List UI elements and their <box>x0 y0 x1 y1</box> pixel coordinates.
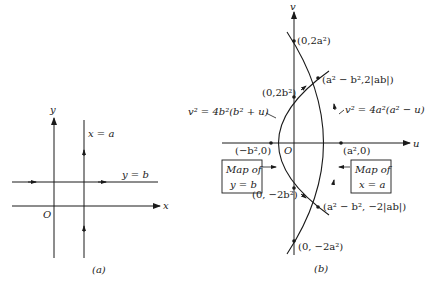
panel-a: x y O x = a y = b (a) <box>12 104 169 275</box>
u-axis-label: u <box>413 138 419 149</box>
point-label-upper-b: (0,2b²) <box>262 87 296 98</box>
arrow-icon <box>334 104 335 110</box>
point-label-upper-intersection: (a² − b²,2|ab|) <box>322 74 394 86</box>
y-axis-label: y <box>49 104 56 115</box>
line-y-equals-b-label: y = b <box>121 169 149 180</box>
points <box>269 39 343 243</box>
v-axis-label: v <box>290 1 296 12</box>
line-x-equals-a-label: x = a <box>88 128 114 139</box>
arrow-icon <box>333 180 334 185</box>
box-right-line2: x = a <box>359 179 385 190</box>
arrow-icon <box>301 86 306 90</box>
origin-label-b: O <box>284 145 292 156</box>
caption-a: (a) <box>92 264 106 275</box>
box-left-line1: Map of <box>225 164 264 175</box>
leader-line <box>339 110 344 114</box>
point-label-left-u: (−b²,0) <box>235 145 271 156</box>
figure: x y O x = a y = b (a) u v O <box>0 0 434 288</box>
box-right-line1: Map of <box>354 164 393 175</box>
panel-b: u v O (0,2a²) (a² − b²,2|ab|) (0,2b²) (−… <box>188 1 425 274</box>
caption-b: (b) <box>314 263 328 274</box>
point-label-top-v: (0,2a²) <box>297 35 331 46</box>
point-label-right-u: (a²,0) <box>343 145 370 156</box>
equation-curve-a: v² = 4a²(a² − u) <box>345 104 425 115</box>
equation-curve-b: v² = 4b²(b² + u) <box>188 106 269 117</box>
origin-label-a: O <box>43 209 51 220</box>
point-label-bottom-v: (0, −2a²) <box>298 241 343 252</box>
point-label-lower-intersection: (a² − b², −2|ab|) <box>323 201 406 213</box>
x-axis-label: x <box>163 200 169 211</box>
point-label-lower-b: (0, −2b²) <box>252 189 298 200</box>
box-left-line2: y = b <box>229 179 257 190</box>
